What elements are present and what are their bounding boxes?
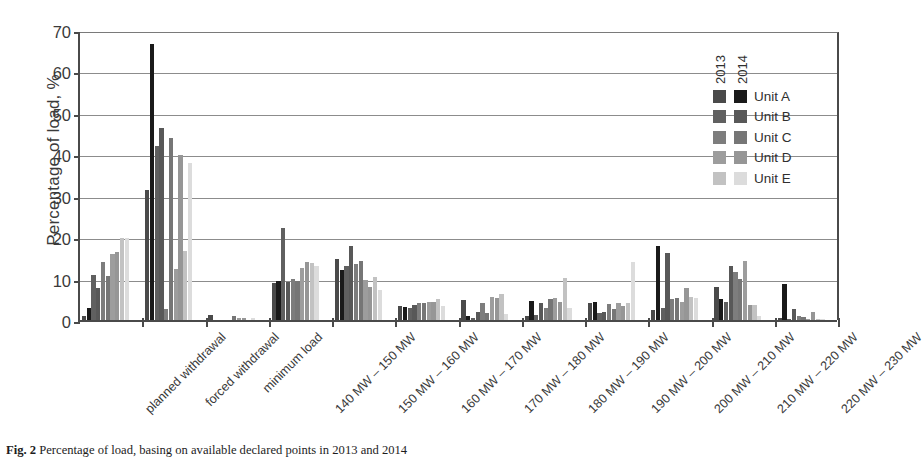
- bar: [738, 279, 742, 320]
- legend-year-headers: 20132014: [713, 40, 837, 86]
- bar: [378, 290, 382, 320]
- bar: [150, 44, 154, 320]
- legend-swatch-2014: [734, 131, 747, 144]
- bar: [87, 308, 91, 320]
- bar: [368, 287, 372, 320]
- bar: [684, 288, 688, 320]
- bar: [403, 307, 407, 320]
- legend-year-label: 2014: [735, 55, 750, 84]
- bar: [616, 303, 620, 320]
- legend-item-label: Unit B: [754, 110, 791, 124]
- bar-group: [460, 32, 523, 320]
- bar: [612, 309, 616, 320]
- bar: [441, 306, 445, 321]
- bar: [661, 308, 665, 320]
- bar: [286, 282, 290, 320]
- bar-group: [80, 32, 143, 320]
- bar: [748, 305, 752, 320]
- bar: [626, 303, 630, 320]
- bar: [656, 246, 660, 320]
- bar-group: [143, 32, 206, 320]
- bar: [436, 299, 440, 320]
- bar: [251, 318, 255, 320]
- bar: [115, 252, 119, 320]
- legend-item-label: Unit E: [754, 172, 791, 186]
- legend-item-label: Unit C: [754, 131, 792, 145]
- bar: [242, 318, 246, 320]
- bar: [373, 277, 377, 320]
- bar: [480, 303, 484, 320]
- bar: [91, 275, 95, 320]
- legend-item[interactable]: Unit E: [713, 168, 837, 189]
- bar-group: [333, 32, 396, 320]
- bar: [431, 302, 435, 320]
- legend-swatch-2013: [713, 110, 726, 123]
- bar: [281, 228, 285, 320]
- bar: [417, 303, 421, 320]
- legend-swatch-2013: [713, 90, 726, 103]
- legend-rows: Unit AUnit BUnit CUnit DUnit E: [713, 86, 837, 189]
- bar: [276, 281, 280, 320]
- legend-item-label: Unit D: [754, 151, 792, 165]
- x-axis-tick-mark: [838, 318, 840, 327]
- bar: [422, 303, 426, 320]
- bar: [82, 316, 86, 320]
- bar: [602, 312, 606, 320]
- bar: [548, 299, 552, 320]
- bar: [183, 251, 187, 320]
- bar-group: [586, 32, 649, 320]
- bar: [110, 254, 114, 320]
- legend-item[interactable]: Unit A: [713, 86, 837, 107]
- bar: [724, 302, 728, 320]
- bar: [504, 314, 508, 320]
- bar: [101, 262, 105, 320]
- bar: [567, 308, 571, 320]
- bar: [310, 263, 314, 320]
- bar: [145, 190, 149, 321]
- bar: [757, 316, 761, 320]
- bar: [174, 269, 178, 320]
- legend-swatch-2014: [734, 172, 747, 185]
- bar: [553, 298, 557, 320]
- bar: [743, 261, 747, 320]
- bar: [778, 318, 782, 320]
- bar: [295, 281, 299, 320]
- bar: [125, 238, 129, 320]
- legend-item[interactable]: Unit B: [713, 107, 837, 128]
- caption-text: Percentage of load, basing on available …: [39, 443, 407, 457]
- bar: [597, 313, 601, 320]
- bar-group: [270, 32, 333, 320]
- legend-item[interactable]: Unit D: [713, 148, 837, 169]
- bar: [232, 316, 236, 320]
- bar: [820, 319, 824, 320]
- bar: [694, 298, 698, 320]
- bar: [169, 138, 173, 320]
- bar: [797, 316, 801, 320]
- bar: [354, 264, 358, 320]
- bar: [471, 318, 475, 320]
- bar: [272, 283, 276, 320]
- bar: [499, 294, 503, 320]
- bar: [680, 302, 684, 320]
- legend-item[interactable]: Unit C: [713, 127, 837, 148]
- bar: [544, 308, 548, 320]
- bar: [729, 266, 733, 320]
- bar: [164, 309, 168, 320]
- bar-group: [649, 32, 712, 320]
- bar: [363, 280, 367, 320]
- bar: [340, 270, 344, 320]
- bar: [106, 276, 110, 320]
- bar: [300, 268, 304, 320]
- bar: [689, 297, 693, 320]
- bar: [563, 278, 567, 320]
- bar: [408, 308, 412, 320]
- bar: [466, 316, 470, 320]
- bar: [752, 305, 756, 320]
- bar: [719, 299, 723, 320]
- bar: [558, 302, 562, 320]
- bar: [188, 163, 192, 320]
- legend-swatch-2014: [734, 110, 747, 123]
- bar: [792, 309, 796, 320]
- bar: [349, 246, 353, 320]
